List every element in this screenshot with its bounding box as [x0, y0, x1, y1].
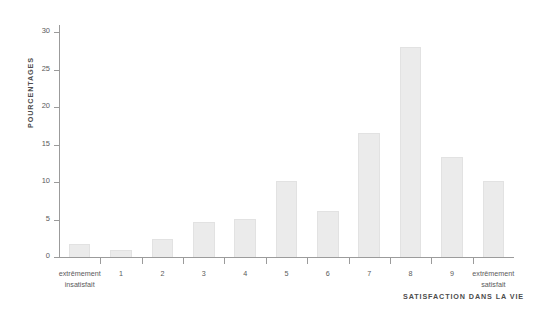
- x-axis-tick: [266, 258, 267, 264]
- y-axis-tick-label: 20: [42, 101, 50, 110]
- x-axis-tick: [349, 258, 350, 264]
- y-axis-tick: 0: [54, 257, 59, 258]
- y-axis-tick: 5: [54, 220, 59, 221]
- y-axis-tick-label: 30: [42, 26, 50, 35]
- y-axis-tick: 25: [54, 70, 59, 71]
- y-axis-tick-label: 15: [42, 139, 50, 148]
- y-axis-tick-label: 0: [46, 251, 50, 260]
- bar: [152, 239, 174, 257]
- x-axis-tick: [307, 258, 308, 264]
- y-axis-title: POURCENTAGES: [26, 8, 40, 128]
- y-axis-tick-label: 10: [42, 176, 50, 185]
- x-axis-tick-label: extrêmement satisfait: [454, 268, 532, 290]
- bar: [110, 250, 132, 257]
- y-axis-line: [59, 25, 60, 258]
- bar: [69, 244, 91, 257]
- plot-area: 051015202530extrêmement insatisfait12345…: [59, 25, 514, 258]
- bar: [317, 211, 339, 257]
- x-axis-tick: [142, 258, 143, 264]
- x-axis-tick: [431, 258, 432, 264]
- bar: [400, 47, 422, 257]
- y-axis-tick: 15: [54, 145, 59, 146]
- y-axis-tick: 30: [54, 32, 59, 33]
- bar: [483, 181, 505, 257]
- bar: [234, 219, 256, 257]
- x-axis-tick: [100, 258, 101, 264]
- bar: [193, 222, 215, 257]
- x-axis-title: SATISFACTION DANS LA VIE: [403, 292, 524, 301]
- y-axis-tick-label: 25: [42, 64, 50, 73]
- bar: [276, 181, 298, 257]
- bar: [441, 157, 463, 257]
- y-axis-tick-label: 5: [46, 214, 50, 223]
- y-axis-tick: 20: [54, 107, 59, 108]
- x-axis-line: [59, 257, 514, 258]
- bar: [358, 133, 380, 257]
- y-axis-tick: 10: [54, 182, 59, 183]
- bar-chart-figure: POURCENTAGES 051015202530extrêmement ins…: [0, 0, 539, 315]
- x-axis-tick: [390, 258, 391, 264]
- x-axis-tick: [473, 258, 474, 264]
- x-axis-tick: [224, 258, 225, 264]
- x-axis-tick: [183, 258, 184, 264]
